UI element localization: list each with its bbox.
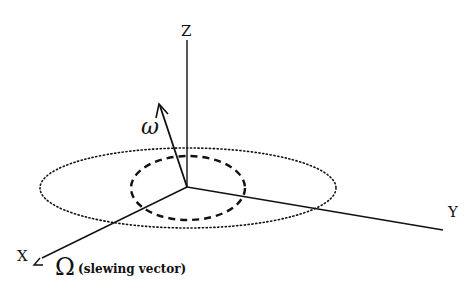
x-axis-arrowhead-icon — [34, 258, 43, 265]
omega-vector-line — [160, 106, 187, 187]
x-axis-line — [42, 187, 187, 258]
axes-diagram — [0, 0, 476, 290]
inner-dashed-ellipse — [131, 156, 245, 220]
y-axis-label: Y — [448, 203, 458, 221]
y-axis-line — [187, 187, 443, 230]
omega-label: ω — [141, 114, 159, 139]
slewing-symbol: Ω — [55, 253, 75, 281]
slewing-note: (slewing vector) — [78, 262, 186, 276]
x-axis-label: X — [17, 247, 28, 265]
outer-dotted-ellipse — [40, 148, 336, 228]
z-axis-label: Z — [181, 22, 191, 40]
